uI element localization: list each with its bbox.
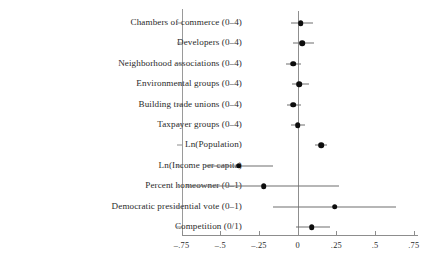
plot-area: –.75–.5–.250.25.5.75Chambers of commerce… bbox=[0, 0, 428, 266]
x-axis-line bbox=[182, 235, 418, 236]
point-estimate-marker bbox=[318, 143, 324, 149]
point-estimate-marker bbox=[296, 81, 302, 87]
y-axis-tick bbox=[177, 104, 182, 105]
x-axis-tick bbox=[182, 231, 183, 235]
category-label: Developers (0–4) bbox=[177, 39, 242, 48]
x-axis-tick-label: .5 bbox=[372, 241, 379, 250]
x-axis-tick-label: –.75 bbox=[174, 241, 189, 250]
coefficient-plot-figure: –.75–.5–.250.25.5.75Chambers of commerce… bbox=[0, 0, 428, 266]
x-axis-tick-label: –.5 bbox=[215, 241, 226, 250]
x-axis-tick-label: –.25 bbox=[251, 241, 266, 250]
x-axis-tick-label: 0 bbox=[295, 241, 299, 250]
y-axis-tick bbox=[177, 145, 182, 146]
y-axis-tick bbox=[177, 23, 182, 24]
point-estimate-marker bbox=[298, 20, 304, 26]
x-axis-tick bbox=[336, 231, 337, 235]
point-estimate-marker bbox=[290, 61, 296, 67]
point-estimate-marker bbox=[332, 204, 338, 210]
x-axis-tick-label: .25 bbox=[331, 241, 342, 250]
point-estimate-marker bbox=[261, 183, 267, 189]
category-label: Ln(Population) bbox=[185, 141, 242, 150]
y-axis-tick bbox=[177, 227, 182, 228]
point-estimate-marker bbox=[295, 122, 301, 128]
y-axis-tick bbox=[177, 43, 182, 44]
y-axis-tick bbox=[177, 165, 182, 166]
category-label: Competition (0/1) bbox=[175, 222, 242, 231]
y-axis-tick bbox=[177, 186, 182, 187]
point-estimate-marker bbox=[309, 224, 315, 230]
point-estimate-marker bbox=[300, 41, 306, 47]
point-estimate-marker bbox=[236, 163, 242, 169]
x-axis-tick-label: .75 bbox=[408, 241, 419, 250]
y-axis-tick bbox=[177, 63, 182, 64]
x-axis-tick bbox=[259, 231, 260, 235]
category-label: Chambers of commerce (0–4) bbox=[131, 18, 242, 27]
y-axis-tick bbox=[177, 206, 182, 207]
x-axis-tick bbox=[220, 231, 221, 235]
point-estimate-marker bbox=[290, 102, 296, 108]
x-axis-tick bbox=[414, 231, 415, 235]
y-axis-tick bbox=[177, 125, 182, 126]
category-label: Building trade unions (0–4) bbox=[139, 100, 242, 109]
x-axis-tick bbox=[298, 231, 299, 235]
x-axis-tick bbox=[375, 231, 376, 235]
y-axis-tick bbox=[177, 84, 182, 85]
category-label: Environmental groups (0–4) bbox=[136, 80, 242, 89]
category-label: Taxpayer groups (0–4) bbox=[157, 120, 242, 129]
